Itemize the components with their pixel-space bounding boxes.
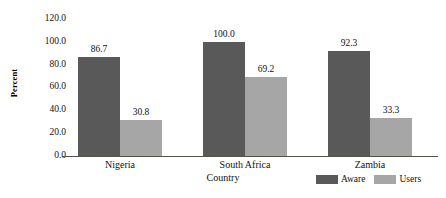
bar-value-label: 100.0: [203, 30, 245, 40]
y-axis-tick-label: 100.0: [22, 37, 66, 47]
x-axis-category-label: Nigeria: [60, 159, 180, 170]
bar-value-label: 92.3: [328, 39, 370, 49]
bar-value-label: 30.8: [120, 108, 162, 118]
y-axis-tick-label: 20.0: [22, 128, 66, 138]
legend-item-users[interactable]: Users: [374, 175, 421, 185]
bar-value-label: 33.3: [370, 106, 412, 116]
y-axis-tick-label: 40.0: [22, 105, 66, 115]
bar-nigeria-users: [120, 120, 162, 155]
legend-label: Aware: [341, 175, 365, 185]
legend-label: Users: [399, 175, 421, 185]
bar-zambia-aware: [328, 51, 370, 156]
bar-nigeria-aware: [78, 57, 120, 156]
bar-chart: Percent 120.0100.080.060.040.020.00.0 86…: [0, 0, 446, 198]
plot-area: 86.730.8100.069.292.333.3: [70, 16, 430, 156]
bar-south-africa-aware: [203, 42, 245, 156]
y-axis-tick-label: 60.0: [22, 82, 66, 92]
y-axis-tick-label: 80.0: [22, 60, 66, 70]
legend-swatch-icon: [316, 175, 338, 184]
x-axis-line: [62, 156, 438, 157]
legend-item-aware[interactable]: Aware: [316, 175, 365, 185]
bar-value-label: 69.2: [245, 65, 287, 75]
bar-value-label: 86.7: [78, 45, 120, 55]
bar-zambia-users: [370, 118, 412, 156]
legend-swatch-icon: [374, 175, 396, 184]
bar-south-africa-users: [245, 77, 287, 156]
x-axis-category-label: Zambia: [310, 159, 430, 170]
y-axis-title: Percent: [9, 53, 19, 113]
y-axis-tick-label: 120.0: [22, 14, 66, 24]
chart-legend: AwareUsers: [316, 175, 421, 185]
x-axis-category-label: South Africa: [185, 159, 305, 170]
